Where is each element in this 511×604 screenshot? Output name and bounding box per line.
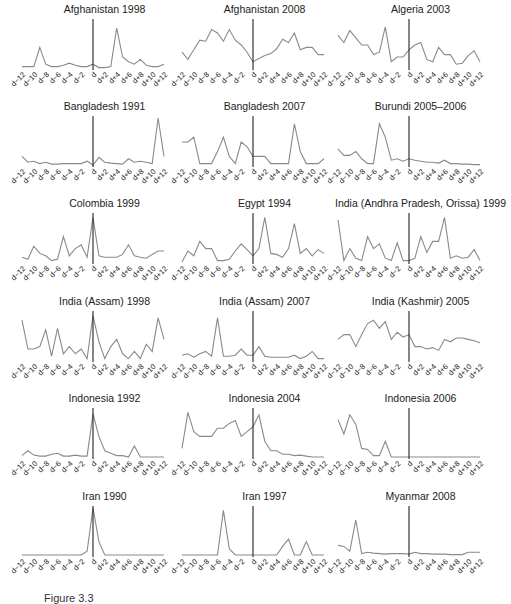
chart-panel: Indonesia 1992d−12d−10d−8d−6d−4d−2dd+2d+… [22,392,187,488]
chart-panel: Myanmar 2008d−12d−10d−8d−6d−4d−2dd+2d+4d… [338,490,503,586]
line-plot: d−12d−10d−8d−6d−4d−2dd+2d+4d+6d+8d+10d+1… [22,490,187,586]
line-plot: d−12d−10d−8d−6d−4d−2dd+2d+4d+6d+8d+10d+1… [22,197,187,293]
x-tick-label: d−2 [71,70,86,85]
line-plot: d−12d−10d−8d−6d−4d−2dd+2d+4d+6d+8d+10d+1… [338,490,503,586]
chart-panel: Burundi 2005–2006d−12d−10d−8d−6d−4d−2dd+… [338,100,503,196]
x-tick-label: d−2 [231,167,246,182]
chart-panel: Iran 1990d−12d−10d−8d−6d−4d−2dd+2d+4d+6d… [22,490,187,586]
chart-panel: Indonesia 2004d−12d−10d−8d−6d−4d−2dd+2d+… [182,392,347,488]
x-tick-label: d−2 [387,167,402,182]
chart-panel: India (Andhra Pradesh, Orissa) 1999d−12d… [338,197,503,293]
x-tick-label: d−2 [71,264,86,279]
x-tick-label: d−2 [71,557,86,572]
chart-panel: Algeria 2003d−12d−10d−8d−6d−4d−2dd+2d+4d… [338,3,503,99]
x-tick-label: d−2 [387,70,402,85]
chart-panel: India (Kashmir) 2005d−12d−10d−8d−6d−4d−2… [338,295,503,391]
line-plot: d−12d−10d−8d−6d−4d−2dd+2d+4d+6d+8d+10d+1… [338,3,503,99]
x-tick-label: d−2 [231,459,246,474]
line-plot: d−12d−10d−8d−6d−4d−2dd+2d+4d+6d+8d+10d+1… [338,392,503,488]
line-plot: d−12d−10d−8d−6d−4d−2dd+2d+4d+6d+8d+10d+1… [338,100,503,196]
chart-panel: Egypt 1994d−12d−10d−8d−6d−4d−2dd+2d+4d+6… [182,197,347,293]
line-plot: d−12d−10d−8d−6d−4d−2dd+2d+4d+6d+8d+10d+1… [182,295,347,391]
line-plot: d−12d−10d−8d−6d−4d−2dd+2d+4d+6d+8d+10d+1… [182,3,347,99]
chart-panel: India (Assam) 1998d−12d−10d−8d−6d−4d−2dd… [22,295,187,391]
line-plot: d−12d−10d−8d−6d−4d−2dd+2d+4d+6d+8d+10d+1… [182,197,347,293]
x-tick-label: d−2 [387,459,402,474]
line-plot: d−12d−10d−8d−6d−4d−2dd+2d+4d+6d+8d+10d+1… [22,295,187,391]
x-tick-label: d−2 [387,362,402,377]
chart-panel: Bangladesh 2007d−12d−10d−8d−6d−4d−2dd+2d… [182,100,347,196]
chart-panel: India (Assam) 2007d−12d−10d−8d−6d−4d−2dd… [182,295,347,391]
x-tick-label: d−2 [231,70,246,85]
x-tick-label: d−2 [231,557,246,572]
line-plot: d−12d−10d−8d−6d−4d−2dd+2d+4d+6d+8d+10d+1… [22,392,187,488]
x-tick-label: d−2 [231,264,246,279]
x-tick-label: d−2 [71,167,86,182]
chart-panel: Indonesia 2006d−12d−10d−8d−6d−4d−2dd+2d+… [338,392,503,488]
chart-panel: Colombia 1999d−12d−10d−8d−6d−4d−2dd+2d+4… [22,197,187,293]
chart-panel: Afghanistan 2008d−12d−10d−8d−6d−4d−2dd+2… [182,3,347,99]
chart-panel: Iran 1997d−12d−10d−8d−6d−4d−2dd+2d+4d+6d… [182,490,347,586]
chart-panel: Afghanistan 1998d−12d−10d−8d−6d−4d−2dd+2… [22,3,187,99]
line-plot: d−12d−10d−8d−6d−4d−2dd+2d+4d+6d+8d+10d+1… [338,197,503,293]
line-plot: d−12d−10d−8d−6d−4d−2dd+2d+4d+6d+8d+10d+1… [182,100,347,196]
chart-panel: Bangladesh 1991d−12d−10d−8d−6d−4d−2dd+2d… [22,100,187,196]
line-plot: d−12d−10d−8d−6d−4d−2dd+2d+4d+6d+8d+10d+1… [182,490,347,586]
x-tick-label: d−2 [71,459,86,474]
line-plot: d−12d−10d−8d−6d−4d−2dd+2d+4d+6d+8d+10d+1… [338,295,503,391]
x-tick-label: d−2 [71,362,86,377]
x-tick-label: d−2 [387,557,402,572]
line-plot: d−12d−10d−8d−6d−4d−2dd+2d+4d+6d+8d+10d+1… [22,100,187,196]
line-plot: d−12d−10d−8d−6d−4d−2dd+2d+4d+6d+8d+10d+1… [22,3,187,99]
x-tick-label: d−2 [231,362,246,377]
x-tick-label: d−2 [387,264,402,279]
figure-caption: Figure 3.3 [44,592,94,604]
line-plot: d−12d−10d−8d−6d−4d−2dd+2d+4d+6d+8d+10d+1… [182,392,347,488]
